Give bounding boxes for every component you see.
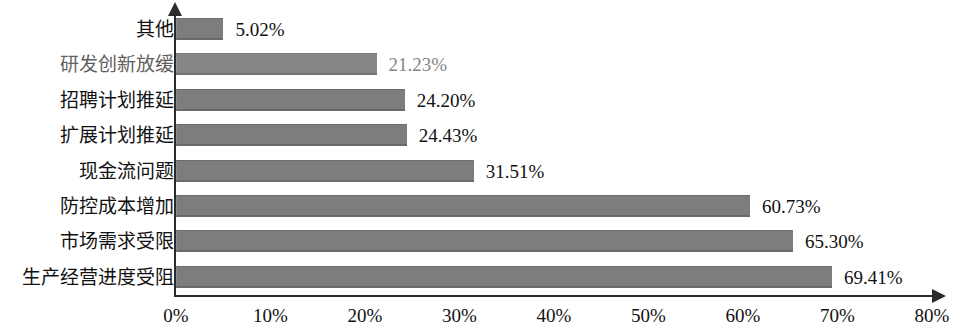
bar-row: 研发创新放缓21.23% <box>0 46 963 82</box>
bar <box>176 89 405 111</box>
x-axis-tick-label: 20% <box>348 303 383 329</box>
bars-layer: 其他5.02%研发创新放缓21.23%招聘计划推延24.20%扩展计划推延24.… <box>0 0 963 295</box>
x-axis-line <box>174 295 934 297</box>
bar-value-label: 5.02% <box>235 19 284 40</box>
bar <box>176 195 750 217</box>
bar-value-label: 24.43% <box>419 125 478 146</box>
bar-chart: 其他5.02%研发创新放缓21.23%招聘计划推延24.20%扩展计划推延24.… <box>0 0 963 335</box>
bar-value-label: 31.51% <box>486 160 545 181</box>
category-label: 其他 <box>136 18 174 40</box>
x-axis-tick-label: 70% <box>820 303 855 329</box>
bar-value-label: 24.20% <box>417 89 476 110</box>
category-label: 扩展计划推延 <box>60 124 174 146</box>
bar-value-label: 60.73% <box>762 196 821 217</box>
category-label: 研发创新放缓 <box>60 53 174 75</box>
x-axis-tick-label: 30% <box>442 303 477 329</box>
bar-row: 现金流问题31.51% <box>0 153 963 189</box>
x-axis-tick-label: 10% <box>253 303 288 329</box>
plot-area: 其他5.02%研发创新放缓21.23%招聘计划推延24.20%扩展计划推延24.… <box>0 0 963 335</box>
bar-row: 生产经营进度受阻69.41% <box>0 259 963 295</box>
x-axis-tick-label: 50% <box>631 303 666 329</box>
bar <box>176 124 407 146</box>
category-label: 现金流问题 <box>79 160 174 182</box>
bar-row: 防控成本增加60.73% <box>0 188 963 224</box>
x-axis-tick-label: 60% <box>726 303 761 329</box>
bar-row: 招聘计划推延24.20% <box>0 82 963 118</box>
bar <box>176 53 377 75</box>
bar-row: 扩展计划推延24.43% <box>0 117 963 153</box>
bar-value-label: 65.30% <box>805 231 864 252</box>
category-label: 生产经营进度受阻 <box>22 266 174 288</box>
bar <box>176 18 223 40</box>
bar <box>176 160 474 182</box>
bar-value-label: 21.23% <box>389 54 448 75</box>
bar-row: 其他5.02% <box>0 11 963 47</box>
bar <box>176 266 832 288</box>
x-axis-tick-label: 0% <box>163 303 188 329</box>
category-label: 市场需求受限 <box>60 230 174 252</box>
x-axis-tick-labels: 0%10%20%30%40%50%60%70%80% <box>0 303 963 335</box>
bar <box>176 230 793 252</box>
bar-row: 市场需求受限65.30% <box>0 223 963 259</box>
x-axis-tick-label: 80% <box>915 303 950 329</box>
category-label: 招聘计划推延 <box>60 89 174 111</box>
x-axis-tick-label: 40% <box>537 303 572 329</box>
bar-value-label: 69.41% <box>844 266 903 287</box>
category-label: 防控成本增加 <box>60 195 174 217</box>
